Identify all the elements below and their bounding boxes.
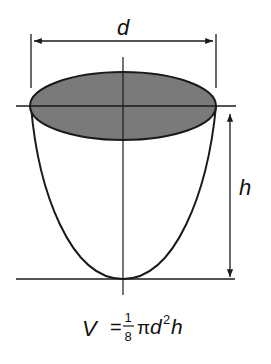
volume-formula: V = 1 8 π d 2 h [82,310,183,344]
svg-text:d: d [150,315,163,338]
height-label: h [239,175,251,200]
svg-text:V: V [82,316,99,341]
paraboloid-diagram: d h V = 1 8 π d 2 h [0,0,271,364]
svg-text:π: π [137,317,150,338]
svg-text:1: 1 [124,310,131,325]
svg-text:2: 2 [163,312,170,327]
svg-text:h: h [171,315,183,338]
diameter-label: d [117,15,130,40]
svg-text:8: 8 [124,329,131,344]
svg-text:=: = [110,316,122,338]
